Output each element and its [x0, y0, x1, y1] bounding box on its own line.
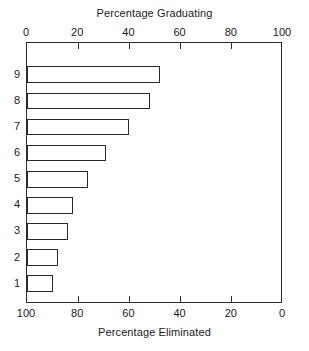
- bottom-tick-label: 0: [279, 307, 285, 319]
- category-label: 5: [14, 172, 20, 184]
- category-label: 2: [14, 251, 20, 263]
- bottom-tick-label: 40: [173, 307, 185, 319]
- top-axis-tick-labels: 020406080100: [0, 26, 309, 40]
- bottom-axis-tick-labels: 100806040200: [0, 307, 309, 321]
- bar: [27, 119, 129, 136]
- bar: [27, 197, 73, 214]
- bottom-tick-label: 80: [71, 307, 83, 319]
- category-label: 7: [14, 120, 20, 132]
- bar: [27, 275, 53, 292]
- category-label: 4: [14, 198, 20, 210]
- top-axis-title: Percentage Graduating: [0, 7, 309, 19]
- category-label: 8: [14, 94, 20, 106]
- top-tick-label: 60: [173, 26, 185, 38]
- bar: [27, 223, 68, 240]
- category-label: 3: [14, 224, 20, 236]
- category-label: 6: [14, 146, 20, 158]
- bar: [27, 66, 160, 83]
- category-axis-labels: 123456789: [0, 42, 24, 303]
- bar-chart: Percentage Graduating 020406080100 12345…: [0, 0, 309, 351]
- category-label: 9: [14, 68, 20, 80]
- bar: [27, 171, 88, 188]
- top-tick-label: 0: [23, 26, 29, 38]
- top-tick-label: 100: [273, 26, 291, 38]
- bottom-axis-title: Percentage Eliminated: [0, 326, 309, 338]
- bar: [27, 93, 150, 110]
- bar: [27, 145, 106, 162]
- bars-layer: [27, 43, 281, 302]
- top-tick-label: 80: [225, 26, 237, 38]
- plot-area: [26, 42, 282, 303]
- bar: [27, 249, 58, 266]
- bottom-tick-label: 20: [225, 307, 237, 319]
- bottom-tick-label: 60: [122, 307, 134, 319]
- bottom-tick-label: 100: [17, 307, 35, 319]
- category-label: 1: [14, 277, 20, 289]
- top-tick-label: 40: [122, 26, 134, 38]
- top-tick-label: 20: [71, 26, 83, 38]
